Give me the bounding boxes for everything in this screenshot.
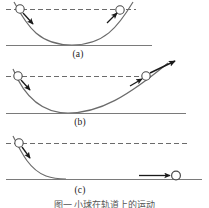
panel-b-arrow-exit-velocity	[150, 61, 175, 73]
panel-c-graphics	[6, 136, 202, 180]
figure-caption: 图一 小球在轨道上的运动	[0, 199, 209, 208]
panel-label-b: (b)	[60, 117, 100, 127]
panel-b-ball-right	[142, 72, 150, 80]
panel-a-arrow-right-velocity	[107, 13, 117, 23]
panel-a-graphics	[6, 2, 152, 46]
panel-b-graphics	[6, 61, 186, 114]
panel-c-arrow-left-velocity	[22, 147, 30, 158]
panel-label-a: (a)	[58, 49, 98, 59]
panel-a-ball-right	[116, 6, 124, 14]
physics-figure: (a) (b) (c) 图一 小球在轨道上的运动	[0, 0, 209, 208]
panel-a-ball-left	[16, 5, 24, 13]
panel-label-c: (c)	[60, 185, 100, 195]
panel-c-ball-left	[15, 139, 23, 147]
panel-b-ball-left	[14, 72, 22, 80]
panel-b-arrow-left-velocity	[21, 80, 30, 90]
panel-c-ball-right	[172, 171, 181, 180]
panel-b-track-curve	[13, 63, 168, 113]
figure-diagram-svg	[0, 0, 209, 208]
